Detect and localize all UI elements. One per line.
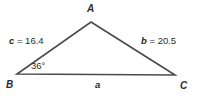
vertex-label-a: A bbox=[87, 4, 94, 14]
side-label-a: a bbox=[95, 80, 100, 90]
vertex-label-b: B bbox=[6, 80, 13, 90]
side-label-c: c = 16.4 bbox=[9, 36, 44, 46]
side-b-variable: b bbox=[141, 35, 147, 46]
vertex-label-c: C bbox=[180, 81, 187, 91]
side-c-variable: c bbox=[9, 35, 14, 46]
angle-label-b: 36° bbox=[31, 61, 45, 71]
triangle-diagram: A B C c = 16.4 b = 20.5 a 36° bbox=[0, 0, 197, 96]
side-c-value: = 16.4 bbox=[17, 35, 44, 46]
side-a-variable: a bbox=[95, 79, 100, 90]
side-b-value: = 20.5 bbox=[149, 35, 176, 46]
side-label-b: b = 20.5 bbox=[141, 36, 176, 46]
